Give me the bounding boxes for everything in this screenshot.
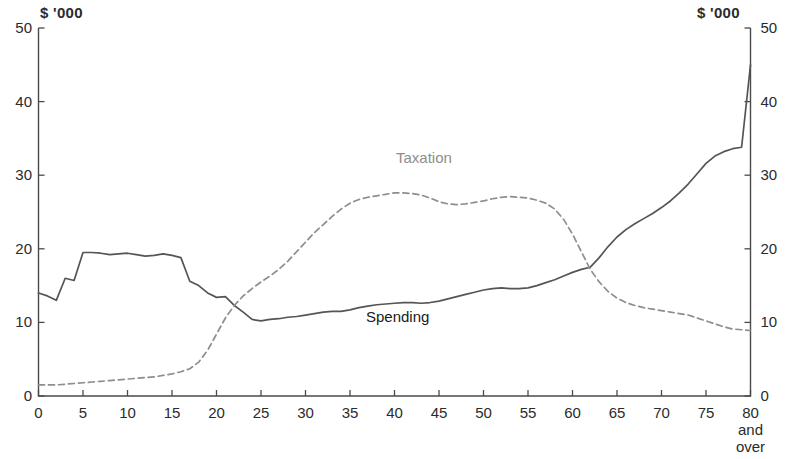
x-tick-label: 25 [241,404,281,421]
x-tick-label-value: 25 [241,404,281,421]
y-tick-label-right: 10 [761,314,788,329]
x-tick-label-value: 65 [597,404,637,421]
series-line-taxation [39,193,751,385]
x-tick-label-value: 35 [330,404,370,421]
y-tick-label-left: 10 [2,314,32,329]
x-tick-label-value: 0 [19,404,59,421]
x-tick-label: 70 [642,404,682,421]
x-tick-label-value: 60 [553,404,593,421]
x-tick-label: 60 [553,404,593,421]
axis-frame [39,28,751,396]
x-tick-label-value: 15 [152,404,192,421]
x-tick-label-value: 20 [197,404,237,421]
series-label-spending: Spending [366,308,429,325]
x-tick-label: 20 [197,404,237,421]
y-tick-label-right: 30 [761,167,788,182]
x-tick-label-value: 10 [108,404,148,421]
x-tick-label: 35 [330,404,370,421]
x-tick-label: 65 [597,404,637,421]
x-tick-label: 5 [63,404,103,421]
y-tick-label-left: 20 [2,241,32,256]
series-label-taxation: Taxation [396,149,452,166]
x-tick-label-value: 75 [686,404,726,421]
y-tick-label-left: 0 [2,388,32,403]
x-tick-label: 40 [375,404,415,421]
x-tick-label: 30 [286,404,326,421]
y-tick-label-left: 40 [2,94,32,109]
x-tick-label: 50 [464,404,504,421]
x-tick-label-value: 80 [731,404,771,421]
x-tick-label-value: 40 [375,404,415,421]
y-tick-label-right: 50 [761,20,788,35]
age-profile-line-chart: $ '000 $ '000 50403020100 50403020100 05… [0,0,788,459]
x-tick-label: 75 [686,404,726,421]
x-tick-label: 10 [108,404,148,421]
x-tick-label-value: 55 [508,404,548,421]
x-tick-label: 0 [19,404,59,421]
y-tick-label-left: 30 [2,167,32,182]
y-tick-label-left: 50 [2,20,32,35]
x-tick-label-value: 70 [642,404,682,421]
y-tick-label-right: 0 [761,388,788,403]
x-tick-label-extra-line: and [731,421,771,438]
plot-area [0,0,788,459]
x-tick-label: 15 [152,404,192,421]
x-tick-label-value: 5 [63,404,103,421]
x-tick-label: 80andover [731,404,771,455]
x-tick-label-value: 45 [419,404,459,421]
x-tick-label-value: 50 [464,404,504,421]
x-tick-label: 45 [419,404,459,421]
y-tick-label-right: 40 [761,94,788,109]
x-tick-label-value: 30 [286,404,326,421]
x-tick-label: 55 [508,404,548,421]
x-tick-label-extra-line: over [731,438,771,455]
y-tick-label-right: 20 [761,241,788,256]
